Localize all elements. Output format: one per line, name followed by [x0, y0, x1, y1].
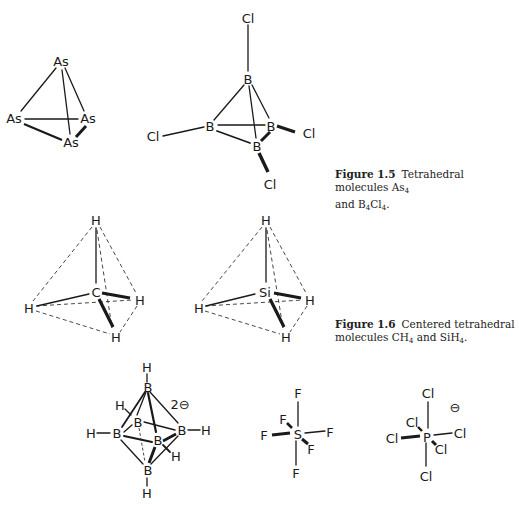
- molecule-ch4: H C H H H: [24, 213, 145, 345]
- atom-cl-bottom: Cl: [264, 177, 277, 192]
- caption-text: and B: [335, 198, 366, 210]
- bond: [217, 131, 250, 143]
- bond: [148, 393, 156, 432]
- atom-cl-top: Cl: [422, 386, 435, 401]
- atom-si-center: Si: [259, 285, 271, 300]
- atom-as-top: As: [53, 54, 69, 69]
- atom-h-bottom: H: [142, 486, 152, 501]
- atom-h-top: H: [142, 360, 152, 375]
- atom-f-right: F: [326, 425, 333, 440]
- wedge-bond: [270, 299, 284, 327]
- charge-label: ⊖: [450, 400, 461, 415]
- atom-as-left: As: [6, 111, 22, 126]
- caption-text: and SiH: [413, 331, 459, 343]
- bond: [214, 85, 244, 120]
- atom-as-right: As: [80, 111, 96, 126]
- atom-cl-back: Cl: [406, 415, 419, 430]
- atom-b-left: B: [113, 426, 122, 441]
- caption-line: and B4Cl4.: [335, 198, 515, 215]
- wedge-bond: [277, 126, 295, 132]
- caption-line: molecules CH4 and SiH4.: [335, 331, 515, 348]
- caption-line: Figure 1.5Tetrahedral molecules As4: [335, 168, 515, 198]
- atom-h-right: H: [201, 423, 211, 438]
- wedge-bond: [272, 433, 290, 435]
- bond: [206, 294, 255, 306]
- figure-label: Figure 1.6: [335, 318, 396, 330]
- atom-h-front: H: [171, 449, 181, 464]
- atom-b-front: B: [154, 433, 163, 448]
- atom-h-left: H: [194, 301, 204, 316]
- atom-f-back: F: [279, 412, 286, 427]
- dashed-edge: [120, 306, 137, 332]
- atom-b-back: B: [134, 415, 143, 430]
- wedge-bond: [24, 124, 62, 140]
- atom-f-front: F: [307, 442, 314, 457]
- atom-b-front: B: [253, 139, 262, 154]
- bond: [249, 86, 256, 138]
- figure-1-5-caption: Figure 1.5Tetrahedral molecules As4 and …: [335, 168, 515, 215]
- bond: [21, 68, 56, 111]
- molecule-b6h6: H B H B H B B B H H B H 2⊖: [86, 360, 211, 501]
- molecule-as4: As As As As: [6, 54, 96, 150]
- molecule-sf6: F F F S F F F: [260, 386, 333, 481]
- atom-h-right: H: [135, 293, 145, 308]
- bond: [65, 68, 84, 111]
- atom-h-front: H: [281, 330, 291, 345]
- caption-text: Cl: [370, 198, 381, 210]
- dashed-edge: [270, 227, 306, 293]
- atom-as-front: As: [63, 135, 79, 150]
- dashed-edge: [33, 227, 92, 301]
- bond: [434, 433, 452, 435]
- bond: [37, 294, 89, 306]
- atom-h-top: H: [261, 213, 271, 228]
- atom-b-right: B: [178, 423, 187, 438]
- wedge-bond: [102, 293, 130, 298]
- atom-h-right: H: [305, 293, 315, 308]
- bond: [124, 436, 152, 442]
- atom-cl-bottom: Cl: [420, 469, 433, 484]
- caption-line: Figure 1.6Centered tetrahedral: [335, 318, 515, 331]
- atom-b-bottom: B: [144, 463, 153, 478]
- bond: [124, 425, 132, 432]
- caption-text: Centered tetrahedral: [402, 318, 515, 330]
- atom-cl-left: Cl: [386, 431, 399, 446]
- atom-cl-right: Cl: [454, 426, 467, 441]
- atom-c-center: C: [91, 285, 100, 300]
- wedge-bond: [259, 153, 268, 172]
- figure-1-6-caption: Figure 1.6Centered tetrahedral molecules…: [335, 318, 515, 348]
- atom-h-front: H: [111, 330, 121, 345]
- caption-text: .: [386, 198, 389, 210]
- atom-cl-front: Cl: [435, 442, 448, 457]
- atom-f-left: F: [260, 428, 267, 443]
- dashed-edge: [205, 311, 280, 334]
- atom-b-right: B: [267, 119, 276, 134]
- molecule-diagrams: As As As As Cl B B B B Cl Cl Cl: [0, 0, 519, 505]
- figure-page: As As As As Cl B B B B Cl Cl Cl: [0, 0, 519, 505]
- bond: [121, 440, 143, 464]
- dashed-edge: [36, 311, 110, 334]
- dashed-bond: [139, 428, 145, 462]
- dashed-edge: [290, 306, 307, 332]
- atom-b-top: B: [144, 380, 153, 395]
- subscript: 4: [405, 187, 409, 195]
- bond: [62, 70, 70, 134]
- atom-p-center: P: [423, 430, 431, 445]
- wedge-bond: [99, 299, 113, 327]
- atom-h-left: H: [86, 426, 96, 441]
- atom-b-left: B: [206, 119, 215, 134]
- charge-label: 2⊖: [170, 397, 189, 412]
- atom-f-bottom: F: [292, 466, 299, 481]
- bond: [305, 431, 325, 433]
- molecule-sih4: H Si H H H: [194, 213, 315, 345]
- dashed-edge: [100, 227, 136, 293]
- molecule-b4cl4: Cl B B B B Cl Cl Cl: [147, 11, 316, 192]
- wedge-bond: [418, 427, 422, 431]
- dashed-edge: [267, 230, 283, 328]
- atom-cl-top: Cl: [242, 11, 255, 26]
- wedge-bond: [401, 436, 420, 438]
- bond: [144, 422, 175, 430]
- atom-h-back: H: [115, 398, 125, 413]
- dashed-edge: [202, 227, 262, 301]
- molecule-pcl6: Cl Cl Cl P Cl Cl Cl ⊖: [386, 386, 467, 484]
- caption-text: .: [464, 331, 467, 343]
